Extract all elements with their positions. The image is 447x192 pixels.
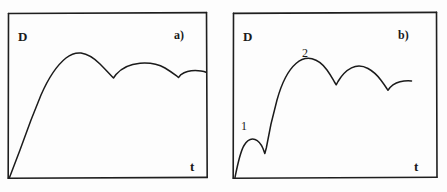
panel-b-curve — [235, 58, 412, 177]
figure-canvas: D t a) D t b) 1 2 — [0, 0, 447, 192]
panel-b-x-axis-label: t — [414, 160, 418, 173]
panel-b-tag: b) — [398, 29, 409, 41]
panel-b-peak-2-label: 2 — [302, 47, 308, 59]
panel-b-peak-1-label: 1 — [241, 120, 247, 132]
panel-b-y-axis-label: D — [243, 30, 253, 43]
panel-b-plot — [0, 0, 447, 192]
panel-b: D t b) 1 2 — [0, 0, 447, 192]
